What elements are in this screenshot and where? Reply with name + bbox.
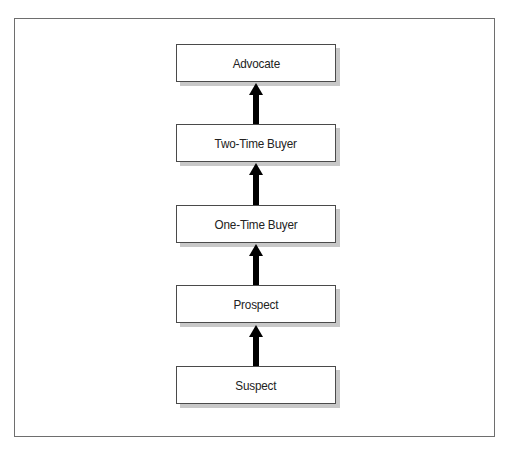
- arrow-up-icon: [248, 163, 264, 205]
- node-one-time-buyer: One-Time Buyer: [176, 205, 336, 243]
- node-label: Prospect: [234, 297, 279, 312]
- node-prospect: Prospect: [176, 285, 336, 323]
- node-advocate: Advocate: [176, 44, 336, 82]
- arrow-up-icon: [248, 325, 264, 366]
- arrow-up-icon: [248, 83, 264, 124]
- node-label: Suspect: [235, 378, 276, 393]
- node-suspect: Suspect: [176, 366, 336, 404]
- node-label: Advocate: [232, 56, 279, 71]
- node-label: Two-Time Buyer: [215, 136, 297, 151]
- arrow-up-icon: [248, 244, 264, 285]
- node-label: One-Time Buyer: [215, 217, 298, 232]
- node-two-time-buyer: Two-Time Buyer: [176, 124, 336, 162]
